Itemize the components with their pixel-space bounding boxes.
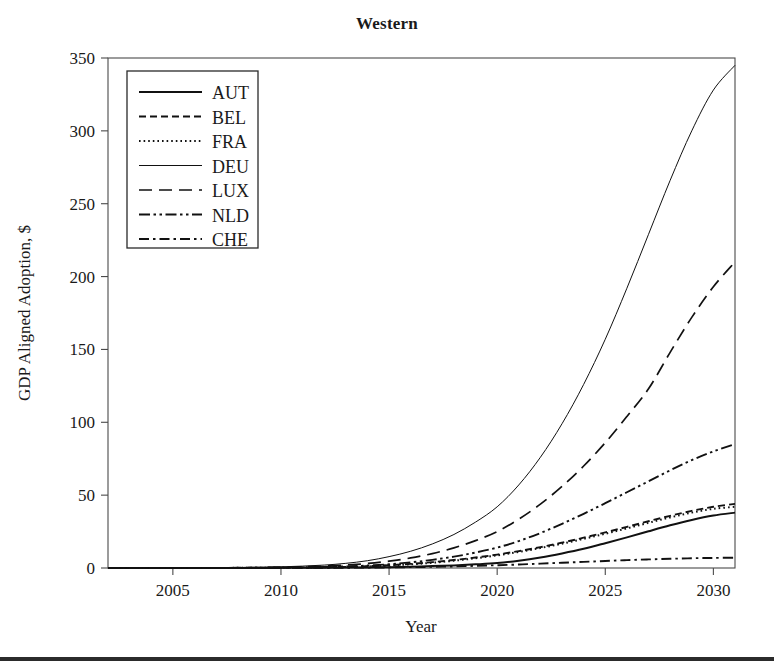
y-axis-ticks: 050100150200250300350 bbox=[70, 49, 109, 578]
legend-label-bel[interactable]: BEL bbox=[212, 108, 246, 128]
y-tick-label: 250 bbox=[70, 195, 96, 214]
chart-figure: Western 050100150200250300350 2005201020… bbox=[0, 0, 774, 661]
y-tick-label: 350 bbox=[70, 49, 96, 68]
legend-label-fra[interactable]: FRA bbox=[212, 132, 247, 152]
x-tick-label: 2010 bbox=[264, 581, 298, 600]
x-axis-ticks: 200520102015202020252030 bbox=[156, 568, 731, 600]
x-tick-label: 2030 bbox=[696, 581, 730, 600]
legend-label-aut[interactable]: AUT bbox=[212, 83, 249, 103]
x-tick-label: 2005 bbox=[156, 581, 190, 600]
bottom-edge-bar bbox=[0, 657, 774, 661]
y-tick-label: 50 bbox=[78, 486, 95, 505]
y-tick-label: 300 bbox=[70, 122, 96, 141]
y-tick-label: 150 bbox=[70, 340, 96, 359]
y-tick-label: 0 bbox=[87, 559, 96, 578]
series-line-nld bbox=[108, 444, 735, 568]
x-axis-title: Year bbox=[405, 617, 437, 636]
x-tick-label: 2025 bbox=[588, 581, 622, 600]
x-tick-label: 2020 bbox=[480, 581, 514, 600]
series-line-lux bbox=[108, 262, 735, 568]
chart-legend[interactable]: AUTBELFRADEULUXNLDCHE bbox=[127, 71, 258, 250]
legend-label-lux[interactable]: LUX bbox=[212, 181, 249, 201]
y-tick-label: 200 bbox=[70, 268, 96, 287]
y-axis-title: GDP Aligned Adoption, $ bbox=[15, 225, 34, 401]
chart-plot-area: 050100150200250300350 200520102015202020… bbox=[0, 0, 774, 661]
legend-label-nld[interactable]: NLD bbox=[212, 206, 249, 226]
y-tick-label: 100 bbox=[70, 413, 96, 432]
legend-label-deu[interactable]: DEU bbox=[212, 157, 249, 177]
series-line-bel bbox=[108, 504, 735, 568]
x-tick-label: 2015 bbox=[372, 581, 406, 600]
legend-label-che[interactable]: CHE bbox=[212, 230, 248, 250]
